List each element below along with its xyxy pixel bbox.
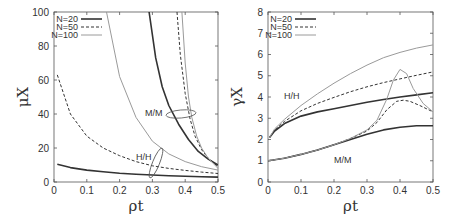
x-tick-label: 0.5 bbox=[211, 185, 225, 196]
x-tick-label: 0.5 bbox=[426, 185, 440, 196]
y-tick-label: 4 bbox=[257, 92, 263, 103]
annotation-hh: H/H bbox=[284, 91, 300, 101]
x-tick-label: 0.1 bbox=[294, 185, 308, 196]
x-tick-label: 0 bbox=[51, 185, 57, 196]
x-tick-label: 0.4 bbox=[178, 185, 192, 196]
annotation-hh: H/H bbox=[136, 152, 152, 162]
y-axis-label: γX bbox=[228, 87, 246, 107]
x-tick-label: 0.2 bbox=[327, 185, 341, 196]
y-tick-label: 80 bbox=[38, 41, 50, 52]
figure: 00.10.20.30.40.5020406080100ρtμXN=20N=50… bbox=[0, 0, 454, 222]
y-tick-label: 8 bbox=[257, 7, 263, 18]
y-tick-label: 0 bbox=[257, 177, 263, 188]
y-tick-label: 20 bbox=[38, 143, 50, 154]
y-tick-label: 100 bbox=[32, 7, 49, 18]
legend: N=20N=50N=100 bbox=[51, 14, 102, 40]
right-chart-gamma-x: 00.10.20.30.40.5012345678ρtγXN=20N=50N=1… bbox=[228, 7, 440, 216]
y-tick-label: 2 bbox=[257, 134, 263, 145]
x-axis-label: ρt bbox=[129, 197, 144, 215]
y-tick-label: 1 bbox=[257, 155, 263, 166]
x-tick-label: 0.3 bbox=[145, 185, 159, 196]
annotation-mm: M/M bbox=[334, 155, 352, 165]
y-tick-label: 7 bbox=[257, 28, 263, 39]
x-tick-label: 0 bbox=[265, 185, 271, 196]
y-tick-label: 0 bbox=[43, 177, 49, 188]
y-tick-label: 6 bbox=[257, 49, 263, 60]
legend-label: N=100 bbox=[51, 30, 78, 40]
x-axis-label: ρt bbox=[343, 197, 358, 215]
legend: N=20N=50N=100 bbox=[265, 14, 316, 40]
x-tick-label: 0.3 bbox=[360, 185, 374, 196]
series-MM-N50 bbox=[268, 100, 433, 161]
series-MM-N100 bbox=[182, 12, 218, 168]
y-axis-label: μX bbox=[14, 86, 32, 107]
x-tick-label: 0.1 bbox=[80, 185, 94, 196]
annotation-mm: M/M bbox=[145, 108, 163, 118]
x-tick-label: 0.4 bbox=[393, 185, 407, 196]
series-MM-N100 bbox=[268, 69, 433, 160]
y-tick-label: 5 bbox=[257, 70, 263, 81]
y-tick-label: 60 bbox=[38, 75, 50, 86]
left-chart-mu-x: 00.10.20.30.40.5020406080100ρtμXN=20N=50… bbox=[14, 7, 225, 216]
x-tick-label: 0.2 bbox=[113, 185, 127, 196]
y-tick-label: 3 bbox=[257, 113, 263, 124]
series-HH-N20 bbox=[57, 164, 218, 177]
legend-label: N=100 bbox=[265, 30, 292, 40]
y-tick-label: 40 bbox=[38, 109, 50, 120]
